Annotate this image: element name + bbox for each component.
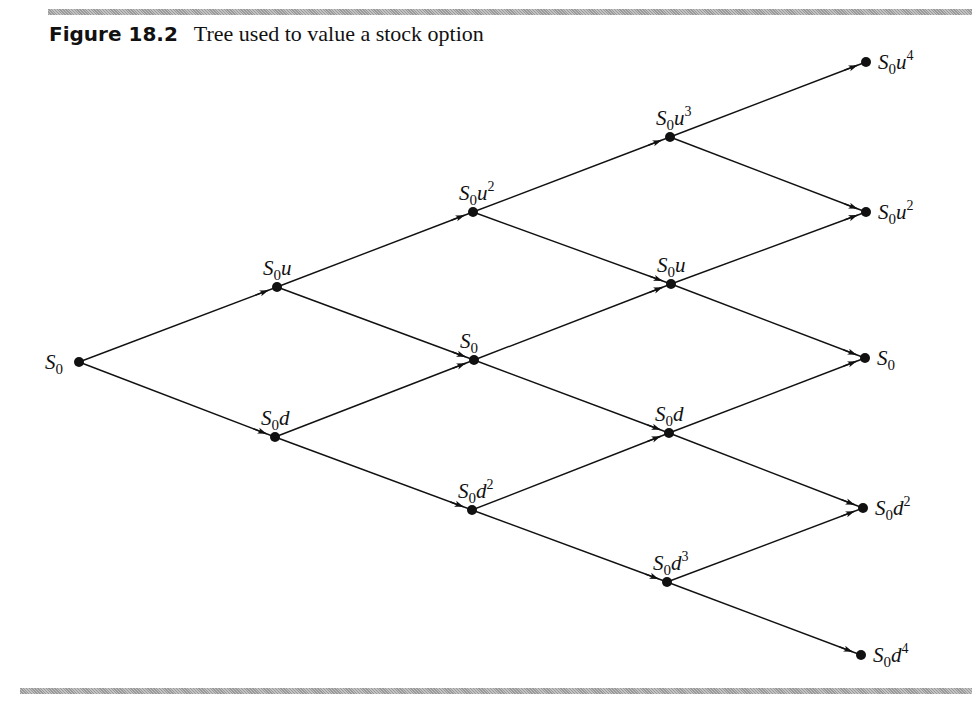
tree-edge: [671, 212, 866, 284]
tree-edge: [669, 358, 865, 433]
node-label: S0u4: [878, 48, 914, 77]
node-label: S0: [877, 346, 895, 373]
node-label: S0d3: [653, 549, 689, 578]
tree-node: [664, 428, 674, 438]
edge-arrowhead: [453, 363, 466, 368]
edge-arrowhead: [648, 436, 661, 441]
tree-edge: [79, 287, 277, 362]
edge-arrowhead: [842, 500, 855, 505]
tree-edge: [669, 433, 863, 508]
edge-arrowhead: [255, 290, 268, 295]
tree-node: [272, 282, 282, 292]
tree-node: [858, 503, 868, 513]
edge-arrowhead: [845, 65, 858, 70]
tree-node: [856, 650, 866, 660]
node-label: S0u2: [459, 179, 495, 208]
node-label: S0: [460, 329, 478, 356]
node-label: S0d2: [458, 477, 494, 506]
tree-edge: [277, 212, 473, 287]
node-label: S0d4: [873, 641, 909, 670]
tree-labels: S0S0uS0dS0u2S0S0d2S0u3S0uS0dS0d3S0u4S0u2…: [45, 48, 914, 670]
tree-edge: [277, 287, 474, 360]
node-label: S0d: [261, 406, 290, 433]
tree-edge: [275, 437, 472, 510]
node-label: S0d: [655, 402, 684, 429]
tree-node: [665, 132, 675, 142]
edge-arrowhead: [845, 204, 858, 209]
edge-arrowhead: [839, 647, 852, 652]
edge-arrowhead: [844, 215, 857, 220]
tree-edge: [667, 582, 861, 655]
tree-edge: [473, 212, 671, 284]
tree-edge: [472, 433, 669, 510]
tree-edge: [472, 510, 667, 582]
edge-arrowhead: [844, 350, 857, 355]
tree-edge: [671, 284, 865, 358]
edge-arrowhead: [650, 287, 663, 292]
tree-edge: [275, 360, 474, 437]
tree-node: [469, 355, 479, 365]
tree-node: [662, 577, 672, 587]
tree-node: [74, 357, 84, 367]
tree-node: [860, 353, 870, 363]
node-label: S0d2: [875, 494, 911, 523]
tree-edge: [670, 62, 866, 137]
bottom-rule: [20, 688, 972, 694]
tree-node: [467, 505, 477, 515]
tree-edge: [473, 137, 670, 212]
tree-node: [861, 207, 871, 217]
tree-node: [468, 207, 478, 217]
tree-edge: [667, 508, 863, 582]
edge-arrowhead: [649, 140, 662, 145]
node-label: S0u: [657, 253, 686, 280]
node-label: S0u: [263, 256, 292, 283]
tree-node: [861, 57, 871, 67]
edge-arrowhead: [841, 511, 854, 516]
tree-node: [666, 279, 676, 289]
edge-arrowhead: [452, 215, 465, 220]
edge-arrowhead: [844, 361, 857, 366]
tree-edge: [474, 284, 671, 360]
node-label: S0u2: [878, 198, 914, 227]
tree-edge: [670, 137, 866, 212]
binomial-tree-diagram: S0S0uS0dS0u2S0S0d2S0u3S0uS0dS0d3S0u4S0u2…: [0, 0, 972, 706]
node-label: S0u3: [656, 104, 692, 133]
tree-edge: [474, 360, 669, 433]
tree-node: [270, 432, 280, 442]
tree-edge: [79, 362, 275, 437]
tree-nodes: [74, 57, 871, 660]
node-label: S0: [45, 350, 63, 377]
